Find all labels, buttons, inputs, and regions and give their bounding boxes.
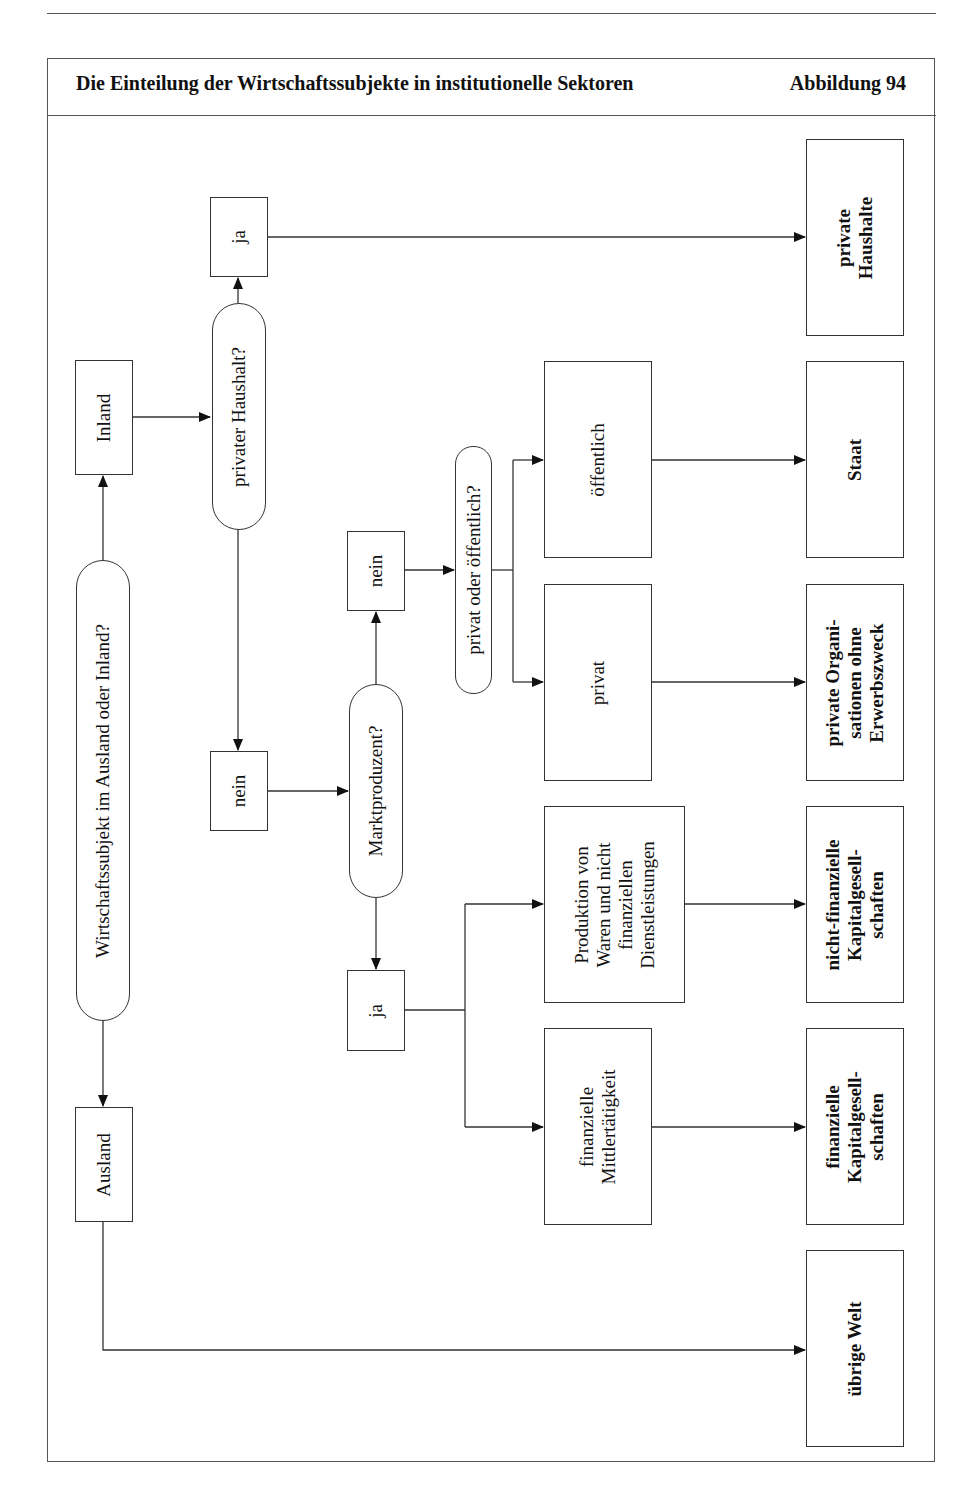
sector-private-haushalte-label: private Haushalte — [833, 196, 877, 278]
node-inland: Inland — [75, 360, 133, 475]
node-nein-haushalt-label: nein — [228, 775, 250, 808]
sector-uebrige-welt: übrige Welt — [806, 1250, 904, 1447]
node-produktion-label: Produktion von Waren und nicht finanziel… — [570, 841, 658, 969]
node-ja-haushalt-label: ja — [228, 230, 250, 244]
node-finanz-mittler-label: finanzielle Mittlertätigkeit — [576, 1069, 620, 1184]
node-ja-markt-label: ja — [365, 1004, 387, 1018]
node-ausland: Ausland — [75, 1107, 133, 1222]
node-inland-label: Inland — [93, 393, 115, 442]
sector-nicht-finanzielle-label: nicht-finanzielle Kapitalgesell- schafte… — [822, 839, 888, 970]
sector-private-org-label: private Organi- sationen ohne Erwerbszwe… — [822, 619, 888, 746]
decision-marktproduzent-label: Marktproduzent? — [365, 726, 387, 857]
sector-staat-label: Staat — [844, 438, 866, 480]
node-ja-haushalt: ja — [210, 197, 268, 277]
decision-privater-haushalt-label: privater Haushalt? — [228, 347, 250, 487]
decision-privat-oeffentlich: privat oder öffentlich? — [455, 446, 492, 694]
node-produktion: Produktion von Waren und nicht finanziel… — [544, 806, 685, 1003]
decision-marktproduzent: Marktproduzent? — [349, 684, 403, 898]
decision-ausland-inland-label: Wirtschaftssubjekt im Ausland oder Inlan… — [92, 624, 114, 958]
decision-privater-haushalt: privater Haushalt? — [212, 303, 266, 530]
decision-ausland-inland: Wirtschaftssubjekt im Ausland oder Inlan… — [76, 560, 130, 1021]
sector-uebrige-welt-label: übrige Welt — [844, 1301, 866, 1396]
decision-privat-oeffentlich-label: privat oder öffentlich? — [463, 485, 485, 655]
node-nein-markt: nein — [347, 531, 405, 611]
node-oeffentlich: öffentlich — [544, 361, 652, 558]
sector-finanzielle: finanzielle Kapitalgesell- schaften — [806, 1028, 904, 1225]
sector-staat: Staat — [806, 361, 904, 558]
node-nein-haushalt: nein — [210, 751, 268, 831]
sector-private-haushalte: private Haushalte — [806, 139, 904, 336]
sector-nicht-finanzielle: nicht-finanzielle Kapitalgesell- schafte… — [806, 806, 904, 1003]
node-ausland-label: Ausland — [93, 1133, 115, 1196]
node-nein-markt-label: nein — [365, 555, 387, 588]
node-privat-label: privat — [587, 660, 609, 704]
node-privat: privat — [544, 584, 652, 781]
node-ja-markt: ja — [347, 970, 405, 1051]
sector-finanzielle-label: finanzielle Kapitalgesell- schaften — [822, 1071, 888, 1183]
sector-private-org: private Organi- sationen ohne Erwerbszwe… — [806, 584, 904, 781]
node-oeffentlich-label: öffentlich — [587, 423, 609, 497]
node-finanz-mittler: finanzielle Mittlertätigkeit — [544, 1028, 652, 1225]
